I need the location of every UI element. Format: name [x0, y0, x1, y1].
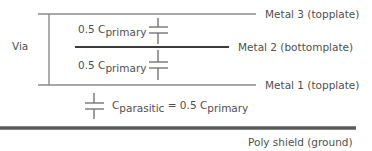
cap-upper-label: 0.5 Cprimary — [78, 24, 146, 35]
cap-parasitic-eq: = 0.5 C — [164, 99, 207, 111]
metal1-label: Metal 1 (topplate) — [265, 80, 359, 91]
cap-lower-sub: primary — [105, 62, 146, 74]
cap-parasitic-eq-sub: primary — [207, 102, 248, 114]
cap-parasitic-label: Cparasitic = 0.5 Cprimary — [112, 100, 248, 111]
capacitor-icon — [149, 18, 168, 44]
capacitor-layer-diagram: Via Metal 3 (topplate) Metal 2 (bottompl… — [0, 0, 372, 151]
cap-lower-coef: 0.5 C — [78, 59, 105, 71]
cap-parasitic-sub: parasitic — [119, 102, 164, 114]
capacitor-icon — [149, 50, 168, 80]
metal2-label: Metal 2 (bottomplate) — [238, 42, 353, 53]
diagram-lines — [0, 0, 372, 151]
via-label: Via — [12, 41, 28, 52]
cap-lower-label: 0.5 Cprimary — [78, 60, 146, 71]
cap-upper-sub: primary — [105, 26, 146, 38]
poly-shield-label: Poly shield (ground) — [248, 137, 353, 148]
capacitor-icon — [85, 93, 104, 119]
metal3-label: Metal 3 (topplate) — [265, 9, 359, 20]
cap-upper-coef: 0.5 C — [78, 23, 105, 35]
